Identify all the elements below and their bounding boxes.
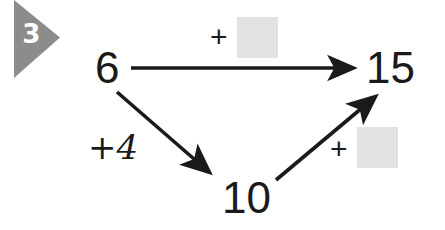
top-answer-blank[interactable]: [237, 17, 278, 58]
top-plus-sign: +: [210, 22, 228, 52]
right-plus-sign: +: [330, 134, 348, 164]
node-middle-value: 10: [222, 176, 271, 220]
node-end-value: 15: [366, 46, 415, 90]
node-start-value: 6: [95, 46, 119, 90]
right-answer-blank[interactable]: [357, 127, 398, 168]
left-increment-label: +4: [88, 130, 138, 164]
worksheet-problem-canvas: 3 6 15 10 + +4 +: [0, 0, 445, 230]
